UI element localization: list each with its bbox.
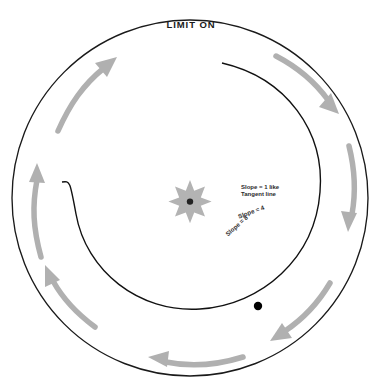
- arrow-left-head: [29, 163, 45, 183]
- arrow-bottom-right-shaft: [285, 283, 330, 331]
- arrow-left-shaft: [34, 180, 41, 257]
- arrow-right-head: [341, 211, 357, 232]
- arrow-top-left-shaft: [58, 68, 104, 131]
- diagram-canvas: LIMIT ON Slope = 1 like Tangent line Slo…: [0, 0, 382, 388]
- arrow-top-right-shaft: [276, 56, 328, 100]
- curve-point-marker: [254, 302, 262, 310]
- arrow-bottom-head: [148, 351, 169, 367]
- center-starburst: [168, 180, 211, 223]
- arrow-bottom-left-shaft: [53, 281, 95, 327]
- arrow-right-shaft: [349, 146, 354, 214]
- diagram-svg: [0, 0, 382, 388]
- arrow-bottom-shaft: [166, 357, 243, 365]
- starburst-center-dot: [187, 198, 193, 204]
